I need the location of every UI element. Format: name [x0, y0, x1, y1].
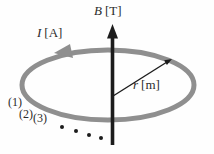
more-turns-dots-icon [60, 125, 103, 140]
current-label: I[A] [37, 26, 62, 40]
diagram-canvas [0, 0, 214, 154]
field-unit: [T] [105, 3, 122, 18]
turn-label-2: (2) [19, 108, 33, 121]
radius-label: r[m] [133, 78, 160, 92]
field-symbol: B [94, 3, 102, 18]
turn-label-3: (3) [33, 112, 47, 125]
radius-symbol: r [133, 77, 138, 92]
field-label: B[T] [94, 4, 122, 18]
current-symbol: I [37, 25, 41, 40]
physics-current-loop-diagram: B[T] I[A] r[m] (1) (2) (3) [0, 0, 214, 154]
radius-unit: [m] [141, 77, 160, 92]
current-unit: [A] [44, 25, 62, 40]
b-field-arrowhead-icon [107, 24, 118, 39]
